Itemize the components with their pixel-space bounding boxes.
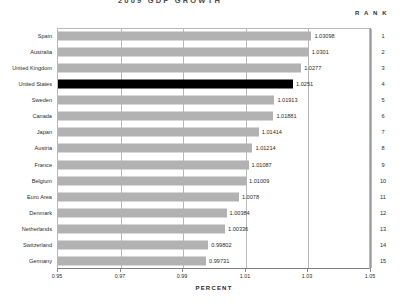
x-tick-label: 1.01: [230, 273, 260, 279]
bar-value-label: 1.00336: [228, 226, 248, 232]
bar: [58, 208, 227, 217]
x-axis-title: PERCENT: [57, 285, 371, 291]
bar-value-label: 0.99802: [211, 242, 231, 248]
bar-value-label: 1.01881: [276, 113, 296, 119]
rank-value: 3: [368, 65, 398, 71]
category-label: Canada: [0, 113, 52, 119]
rank-value: 12: [368, 210, 398, 216]
bar: [58, 64, 301, 73]
bar-value-label: 1.01913: [277, 97, 297, 103]
rank-value: 2: [368, 49, 398, 55]
category-label: Euro Area: [0, 194, 52, 200]
bar: [58, 144, 252, 153]
bar: [58, 32, 311, 41]
bar-value-label: 1.01087: [252, 162, 272, 168]
rank-value: 8: [368, 145, 398, 151]
x-tick-mark: [120, 269, 121, 272]
category-label: Germany: [0, 258, 52, 264]
x-tick-mark: [307, 269, 308, 272]
bar: [58, 48, 309, 57]
rank-value: 5: [368, 97, 398, 103]
bar-row: Germany0.9973115: [0, 253, 406, 269]
x-tick-mark: [370, 269, 371, 272]
bar-row: Spain1.030981: [0, 28, 406, 44]
bar-row: France1.010879: [0, 157, 406, 173]
bar-row: Austria1.012148: [0, 140, 406, 156]
bar-value-label: 0.99731: [209, 258, 229, 264]
rank-value: 10: [368, 178, 398, 184]
bar-highlighted: [58, 80, 293, 89]
bar-row: Australia1.03012: [0, 44, 406, 60]
bar: [58, 192, 239, 201]
bar: [58, 240, 208, 249]
category-label: France: [0, 162, 52, 168]
chart-title: 2009 GDP GROWTH: [0, 0, 340, 5]
bar-row: Denmark1.0038412: [0, 205, 406, 221]
rank-value: 1: [368, 33, 398, 39]
bar: [58, 160, 249, 169]
rank-value: 7: [368, 129, 398, 135]
bar: [58, 256, 206, 265]
x-tick-label: 0.95: [42, 273, 72, 279]
category-label: Denmark: [0, 210, 52, 216]
bar: [58, 96, 274, 105]
bar-row: United States1.02514: [0, 76, 406, 92]
category-label: United States: [0, 81, 52, 87]
x-tick-mark: [57, 269, 58, 272]
x-tick-mark: [182, 269, 183, 272]
bar-row: Netherlands1.0033613: [0, 221, 406, 237]
rank-value: 14: [368, 242, 398, 248]
bar-row: Euro Area1.007811: [0, 189, 406, 205]
category-label: Switzerland: [0, 242, 52, 248]
bar-value-label: 1.0277: [304, 65, 321, 71]
bar-value-label: 1.00384: [230, 210, 250, 216]
bar-value-label: 1.0301: [312, 49, 329, 55]
bar-value-label: 1.01009: [249, 178, 269, 184]
rank-value: 13: [368, 226, 398, 232]
x-tick-label: 0.99: [167, 273, 197, 279]
x-tick-mark: [245, 269, 246, 272]
bar-row: Japan1.014147: [0, 124, 406, 140]
category-label: Netherlands: [0, 226, 52, 232]
bar-row: United Kingdom1.02773: [0, 60, 406, 76]
bar-row: Sweden1.019135: [0, 92, 406, 108]
bar-value-label: 1.0078: [242, 194, 259, 200]
x-tick-label: 0.97: [105, 273, 135, 279]
bar-value-label: 1.01414: [262, 129, 282, 135]
category-label: Spain: [0, 33, 52, 39]
bar: [58, 112, 273, 121]
category-label: United Kingdom: [0, 65, 52, 71]
bar-rows: Spain1.030981Australia1.03012United King…: [0, 28, 406, 269]
bar-value-label: 1.01214: [255, 145, 275, 151]
category-label: Australia: [0, 49, 52, 55]
rank-value: 6: [368, 113, 398, 119]
bar: [58, 176, 246, 185]
bar-row: Belgium1.0100910: [0, 173, 406, 189]
bar: [58, 128, 259, 137]
bar-value-label: 1.0251: [296, 81, 313, 87]
category-label: Austria: [0, 145, 52, 151]
rank-value: 4: [368, 81, 398, 87]
category-label: Japan: [0, 129, 52, 135]
bar-value-label: 1.03098: [314, 33, 334, 39]
bar-row: Switzerland0.9980214: [0, 237, 406, 253]
x-tick-label: 1.03: [292, 273, 322, 279]
x-tick-label: 1.05: [355, 273, 385, 279]
rank-column-header: R A N K: [355, 10, 403, 16]
bar: [58, 224, 225, 233]
x-axis: 0.950.970.991.011.031.05: [57, 269, 371, 283]
bar-row: Canada1.018816: [0, 108, 406, 124]
rank-value: 11: [368, 194, 398, 200]
rank-value: 15: [368, 258, 398, 264]
category-label: Sweden: [0, 97, 52, 103]
category-label: Belgium: [0, 178, 52, 184]
rank-value: 9: [368, 162, 398, 168]
